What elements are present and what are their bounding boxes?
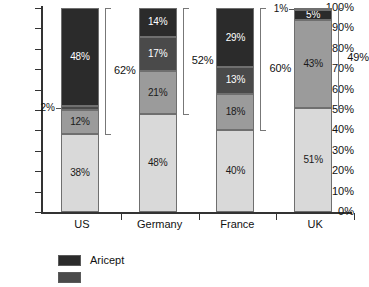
x-category-label-us: US — [43, 218, 121, 230]
segment-value-label: 5% — [306, 10, 320, 20]
x-category-label-uk: UK — [276, 218, 354, 230]
bracket-total-label: 62% — [114, 65, 136, 76]
segment-callout-label: 2% — [25, 103, 55, 113]
segment-value-label: 29% — [226, 33, 245, 43]
bar-segment[interactable]: 43% — [294, 20, 332, 108]
segment-value-label: 14% — [148, 17, 167, 27]
bar-segment[interactable]: 40% — [216, 130, 254, 212]
bar-segment[interactable]: 29% — [216, 8, 254, 67]
bracket-bottom-tick — [105, 134, 111, 135]
bar-segment[interactable]: 13% — [216, 67, 254, 94]
segment-value-label: 12% — [70, 117, 89, 127]
bracket-spine — [338, 8, 339, 108]
y-tick-mark — [35, 171, 42, 172]
segment-value-label: 43% — [303, 59, 322, 69]
segment-value-label: 38% — [70, 168, 89, 178]
bracket-spine — [105, 8, 106, 134]
legend-swatch — [58, 255, 81, 266]
x-axis-line — [41, 212, 352, 214]
segment-value-label: 48% — [148, 158, 167, 168]
bracket-top-tick — [105, 8, 111, 9]
bar-us[interactable]: 48%12%38% — [61, 8, 99, 212]
y-tick-mark — [35, 151, 42, 152]
bracket-total-label: 52% — [192, 55, 214, 66]
bar-segment[interactable]: 17% — [139, 37, 177, 72]
segment-value-label: 21% — [148, 88, 167, 98]
y-tick-mark — [35, 130, 42, 131]
bracket-total-label: 60% — [269, 63, 291, 74]
x-tick-mark — [354, 213, 355, 220]
y-tick-mark — [35, 192, 42, 193]
segment-value-label: 40% — [226, 166, 245, 176]
y-tick-mark — [35, 28, 42, 29]
bracket-bottom-tick — [260, 130, 266, 131]
segment-value-label: 48% — [70, 52, 89, 62]
bar-uk[interactable]: 5%43%51% — [294, 8, 332, 212]
bar-segment[interactable]: 48% — [139, 114, 177, 212]
segment-value-label: 13% — [226, 75, 245, 85]
y-tick-mark — [35, 69, 42, 70]
y-tick-mark — [35, 212, 42, 213]
y-tick-mark — [35, 90, 42, 91]
y-tick-mark — [35, 8, 42, 9]
bracket-top-tick — [260, 8, 266, 9]
callout-leader-line — [289, 9, 294, 10]
bracket-top-tick — [338, 8, 344, 9]
legend-item[interactable] — [58, 271, 124, 284]
bar-segment[interactable]: 5% — [294, 10, 332, 20]
bar-segment[interactable]: 14% — [139, 8, 177, 37]
y-tick-mark — [35, 49, 42, 50]
bracket-total-label: 49% — [347, 52, 369, 63]
bracket-bottom-tick — [338, 108, 344, 109]
bar-france[interactable]: 29%13%18%40% — [216, 8, 254, 212]
callout-leader-line — [56, 108, 61, 109]
bracket-spine — [260, 8, 261, 130]
legend-swatch — [58, 272, 81, 283]
x-category-label-germany: Germany — [121, 218, 199, 230]
bracket-spine — [183, 8, 184, 114]
bar-segment[interactable]: 18% — [216, 94, 254, 131]
x-category-label-france: France — [199, 218, 277, 230]
bar-segment[interactable]: 12% — [61, 110, 99, 134]
chart-legend: Aricept — [58, 254, 124, 287]
bar-segment[interactable]: 48% — [61, 8, 99, 106]
bar-segment[interactable]: 51% — [294, 108, 332, 212]
bar-segment[interactable]: 21% — [139, 71, 177, 114]
bracket-bottom-tick — [183, 114, 189, 115]
segment-callout-label: 1% — [258, 4, 288, 14]
segment-value-label: 51% — [303, 155, 322, 165]
segment-value-label: 18% — [226, 107, 245, 117]
bracket-top-tick — [183, 8, 189, 9]
bar-segment[interactable]: 38% — [61, 134, 99, 212]
bar-germany[interactable]: 14%17%21%48% — [139, 8, 177, 212]
legend-label: Aricept — [90, 255, 124, 266]
segment-value-label: 17% — [148, 49, 167, 59]
legend-item[interactable]: Aricept — [58, 254, 124, 267]
